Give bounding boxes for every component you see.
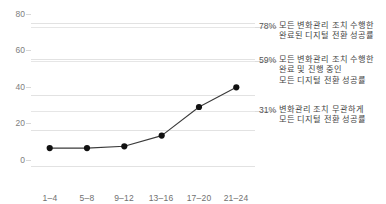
plot-area xyxy=(31,14,255,166)
y-tick-label-60: 60 xyxy=(0,46,25,55)
y-tick-label-0: 0 xyxy=(0,156,25,165)
data-point-9-12 xyxy=(121,143,127,149)
annotation-percent-78: 78% xyxy=(259,21,279,31)
annotation-percent-31: 31% xyxy=(259,105,279,115)
x-tick-label-21-24: 21–24 xyxy=(213,194,259,203)
gridline-0 xyxy=(31,166,255,167)
annotation-text-31: 변화관리 조치 무관하게 모든 디지털 전환 성공률 xyxy=(279,105,366,126)
data-point-1-4 xyxy=(47,145,53,151)
y-tick-label-20: 20 xyxy=(0,119,25,128)
series-polyline xyxy=(50,87,237,148)
annotation-text-59: 모든 변화관리 조치 수행한 완료 및 진행 중인 모든 디지털 전환 성공률 xyxy=(279,55,374,87)
data-point-17-20 xyxy=(196,104,202,110)
annotation-59: 59% 모든 변화관리 조치 수행한 완료 및 진행 중인 모든 디지털 전환 … xyxy=(259,55,386,87)
annotation-78: 78% 모든 변화관리 조치 수행한 완료된 디지털 전환 성공률 xyxy=(259,21,386,42)
annotation-percent-59: 59% xyxy=(259,55,279,65)
y-tick-label-40: 40 xyxy=(0,83,25,92)
y-tick-label-80: 80 xyxy=(0,10,25,19)
series-line-chart xyxy=(31,14,255,166)
annotation-text-78: 모든 변화관리 조치 수행한 완료된 디지털 전환 성공률 xyxy=(279,21,374,42)
annotation-31: 31% 변화관리 조치 무관하게 모든 디지털 전환 성공률 xyxy=(259,105,386,126)
chart-root: 80 60 40 20 0 1–4 5–8 9–12 13–16 17–20 2… xyxy=(0,0,386,204)
data-point-5-8 xyxy=(84,145,90,151)
data-point-13-16 xyxy=(159,133,165,139)
data-point-21-24 xyxy=(233,84,239,90)
